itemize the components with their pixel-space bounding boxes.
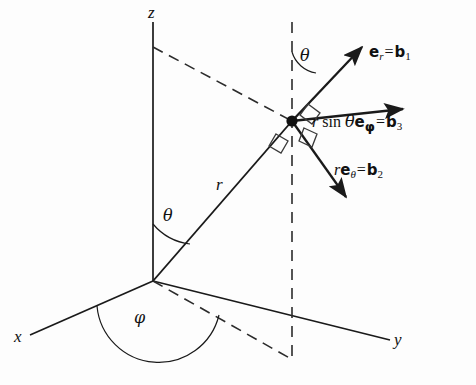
y-axis-label: y [394, 331, 402, 348]
phi-arc [97, 306, 219, 362]
e-theta-vector-label: reθ=b2 [334, 162, 383, 180]
e-phi-vector-label: rsinθeφ=b3 [312, 114, 402, 133]
e-theta-equals: = [357, 161, 366, 178]
e-phi-sin: sin [322, 113, 341, 130]
e-r-subscript: r [379, 50, 383, 62]
b3-subscript: 3 [397, 120, 403, 132]
x-axis-label: x [14, 328, 22, 345]
b2-subscript: 2 [378, 168, 384, 180]
z-axis-to-point-dashed [153, 47, 292, 121]
e-theta-subscript: θ [350, 168, 355, 180]
b1-subscript: 1 [405, 50, 411, 62]
theta-arc-origin [153, 224, 190, 244]
e-phi-equals: = [376, 113, 385, 130]
e-theta-symbol: e [340, 161, 350, 179]
z-axis-label: z [148, 4, 155, 21]
spherical-coordinates-figure: z x y r θ θ φ er=b1 rsinθeφ=b3 reθ=b2 [0, 0, 476, 385]
y-axis-line [153, 281, 390, 340]
angle-arcs-group [97, 52, 316, 362]
e-r-equals: = [384, 43, 393, 60]
dashed-lines-group [153, 22, 293, 360]
e-r-vector-label: er=b1 [369, 44, 411, 62]
radius-label: r [216, 176, 223, 193]
e-phi-subscript: φ [365, 119, 375, 134]
e-phi-symbol: e [355, 113, 365, 131]
point-p [286, 115, 297, 126]
e-r-symbol: e [369, 43, 379, 61]
theta-angle-point-label: θ [300, 48, 310, 64]
theta-angle-origin-label: θ [163, 208, 173, 224]
b2-symbol: b [367, 161, 378, 179]
phi-angle-label: φ [134, 310, 145, 326]
radius-line [153, 121, 292, 281]
e-phi-scalar: r [312, 113, 318, 130]
b1-symbol: b [395, 43, 406, 61]
origin-to-foot-dashed [153, 281, 293, 360]
b3-symbol: b [386, 113, 397, 131]
e-phi-theta: θ [345, 112, 355, 131]
